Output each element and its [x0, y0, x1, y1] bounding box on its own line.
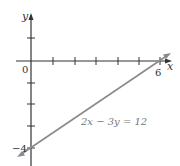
- y-axis-arrow-icon: [29, 13, 34, 20]
- equation-line: [20, 55, 168, 155]
- origin-label: 0: [22, 64, 28, 75]
- x-axis-label: x: [167, 60, 174, 73]
- equation-label: 2x − 3y = 12: [80, 116, 147, 127]
- y-axis-label: y: [21, 10, 29, 23]
- graph: y x 0 6 −4 2x − 3y = 12: [0, 0, 180, 166]
- x-intercept-label: 6: [155, 67, 161, 78]
- y-intercept-label: −4: [12, 143, 27, 154]
